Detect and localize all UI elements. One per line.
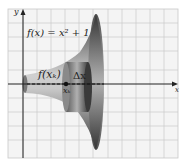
radius-label: f(xₖ) <box>38 68 61 81</box>
solid-of-revolution-figure <box>0 0 187 163</box>
point-label: xₖ <box>63 86 70 95</box>
function-label: f(x) = x² + 1 <box>27 27 90 38</box>
x-axis-label: x <box>175 86 179 94</box>
width-label: Δx <box>73 70 86 81</box>
y-axis-label: y <box>14 7 19 16</box>
